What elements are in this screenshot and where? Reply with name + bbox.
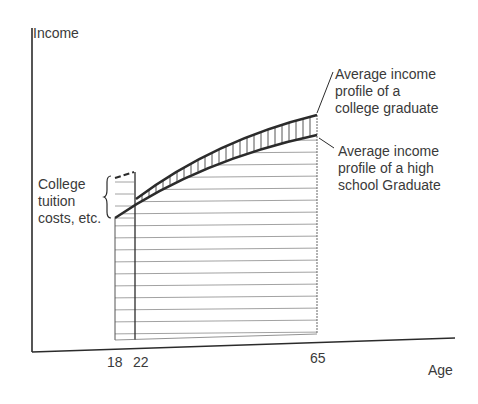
college-annotation-line-1: Average income — [335, 66, 439, 83]
tuition-annotation: College tuition costs, etc. — [38, 176, 101, 227]
tuition-annotation-line-2: tuition — [38, 193, 101, 210]
x-tick-18: 18 — [107, 354, 123, 370]
tuition-annotation-line-3: costs, etc. — [38, 210, 101, 227]
hs-annotation-line-3: school Graduate — [338, 177, 441, 194]
hs-annotation-line-1: Average income — [338, 143, 441, 160]
x-tick-22: 22 — [133, 354, 149, 370]
college-leader-line — [317, 72, 333, 113]
x-axis-label: Age — [428, 362, 453, 379]
tuition-bottom-line — [115, 334, 317, 340]
tuition-dashed-top — [115, 172, 134, 178]
tuition-annotation-line-1: College — [38, 176, 101, 193]
hs-annotation-line-2: profile of a high — [338, 160, 441, 177]
college-annotation-line-2: profile of a — [335, 83, 439, 100]
high-school-annotation: Average income profile of a high school … — [338, 143, 441, 194]
x-axis — [32, 338, 455, 352]
college-annotation-line-3: college graduate — [335, 100, 439, 117]
y-axis-label: Income — [33, 25, 79, 42]
tuition-brace-icon — [104, 176, 111, 218]
hs-leader-line — [319, 138, 334, 148]
college-graduate-annotation: Average income profile of a college grad… — [335, 66, 439, 117]
x-tick-65: 65 — [310, 350, 326, 366]
